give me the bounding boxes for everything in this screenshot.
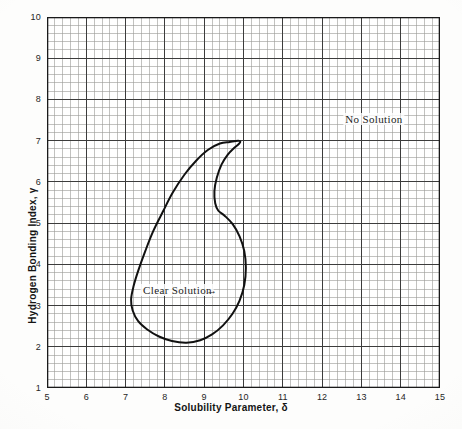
x-tick-label: 9 <box>202 392 207 402</box>
x-axis-title: Solubility Parameter, δ <box>0 402 462 413</box>
x-tick-label: 5 <box>44 392 49 402</box>
figure-container: No Solution Clear Solution → 56789101112… <box>0 0 462 429</box>
y-axis-title: Hydrogen Bonding Index, γ <box>27 156 38 356</box>
y-axis-title-wrapper: Hydrogen Bonding Index, γ <box>12 100 32 300</box>
arrow-right-icon: → <box>206 285 217 296</box>
x-tick-label: 6 <box>84 392 89 402</box>
x-tick-label: 13 <box>356 392 366 402</box>
x-tick-label: 15 <box>435 392 445 402</box>
x-tick-label: 11 <box>278 392 288 402</box>
plot-area: No Solution Clear Solution → <box>47 17 440 388</box>
y-tick-label: 1 <box>21 383 41 393</box>
x-tick-label: 10 <box>238 392 248 402</box>
y-tick-label: 10 <box>21 12 41 22</box>
annotation-clear-solution: Clear Solution <box>141 284 214 296</box>
y-tick-label: 9 <box>21 53 41 63</box>
x-tick-label: 8 <box>162 392 167 402</box>
x-tick-label: 7 <box>123 392 128 402</box>
annotation-no-solution: No Solution <box>343 113 404 125</box>
x-tick-label: 14 <box>395 392 405 402</box>
x-tick-label: 12 <box>317 392 327 402</box>
solubility-contour <box>47 17 440 388</box>
